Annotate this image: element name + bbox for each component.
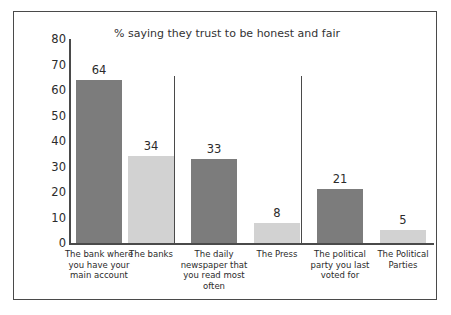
bar-the-daily-newspaper[interactable] [191,159,237,243]
bar-value-label-1: 34 [144,139,159,153]
bar-group-political-party[interactable]: 21 [317,39,363,243]
bar-group-the-press[interactable]: 8 [254,39,300,243]
chart-figure: % saying they trust to be honest and fai… [13,11,437,300]
x-category-label-4: The political party you last voted for [305,249,375,281]
y-tick-label-40: 40 [20,134,66,148]
x-category-label-5: The Political Parties [372,249,434,270]
y-tick-label-50: 50 [20,109,66,123]
bar-value-label-0: 64 [92,63,107,77]
y-tick-label-80: 80 [20,32,66,46]
bar-value-label-2: 33 [207,142,222,156]
y-tick-label-30: 30 [20,160,66,174]
x-category-label-3: The Press [245,249,309,260]
y-tick-label-20: 20 [20,185,66,199]
bar-group-the-banks[interactable]: 34 [128,39,174,243]
bar-political-party-voted-for[interactable] [317,189,363,243]
y-tick-label-60: 60 [20,83,66,97]
x-category-label-1: The banks [119,249,183,260]
bar-value-label-3: 8 [273,206,280,220]
group-divider-2 [301,76,302,244]
bar-group-bank-main[interactable]: 64 [76,39,122,243]
plot-area: 0 10 20 30 40 50 60 70 80 64 34 33 8 [14,12,438,301]
bar-the-press[interactable] [254,223,300,243]
y-tick-label-70: 70 [20,58,66,72]
y-tick-label-0: 0 [20,236,66,250]
x-axis-line [69,243,434,245]
bar-the-political-parties[interactable] [380,230,426,243]
bar-the-banks[interactable] [128,156,174,243]
group-divider-1 [174,76,175,244]
x-category-label-2: The daily newspaper that you read most o… [179,249,249,291]
bar-group-political-parties[interactable]: 5 [380,39,426,243]
bar-value-label-4: 21 [333,172,348,186]
y-tick-label-10: 10 [20,211,66,225]
bar-group-daily-newspaper[interactable]: 33 [191,39,237,243]
bar-the-bank-main-account[interactable] [76,80,122,243]
bar-value-label-5: 5 [399,213,406,227]
y-axis-line [69,39,71,244]
